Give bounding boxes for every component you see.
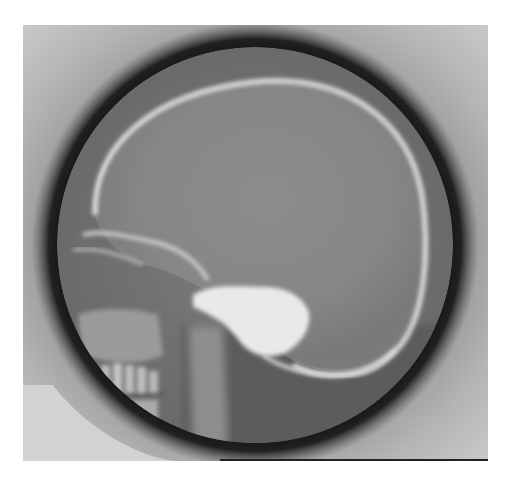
skull-radiograph <box>23 25 488 461</box>
maxilla <box>78 309 163 363</box>
film-edge-line <box>220 459 488 461</box>
xray-film <box>23 25 488 461</box>
